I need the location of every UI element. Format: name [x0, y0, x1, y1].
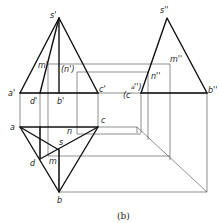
label-m-top: m: [49, 157, 57, 166]
figure-caption: (b): [117, 211, 130, 221]
label-s-side: s'': [160, 6, 169, 15]
label-s-top: s: [59, 138, 63, 147]
label-b-front: b': [57, 97, 64, 106]
label-s-front: s': [50, 11, 56, 20]
label-d-top: d: [30, 159, 36, 168]
label-m-side: m'': [170, 55, 182, 64]
label-a-top: a: [10, 123, 15, 132]
front-edge-sd: [40, 18, 59, 93]
label-a-front: a': [8, 89, 15, 98]
label-n-top: n: [67, 127, 72, 136]
label-c-top: c: [101, 116, 106, 125]
label-b-top: b: [57, 196, 62, 205]
label-m-front: m': [38, 61, 48, 70]
front-view: [20, 18, 98, 93]
miter-line-45deg: [137, 127, 207, 192]
label-d-front: d': [30, 97, 37, 106]
label-n-front: (n'): [61, 65, 75, 74]
label-b-side: b'': [208, 86, 217, 95]
label-n-side: n'': [151, 72, 160, 81]
label-ca-side-close: ''): [134, 83, 142, 92]
three-view-projection-diagram: s' m' (n') a' d' b' c' s'' m'' n'' (c a …: [0, 0, 219, 223]
label-c-side: (c: [123, 91, 131, 100]
label-c-front: c': [99, 85, 106, 94]
